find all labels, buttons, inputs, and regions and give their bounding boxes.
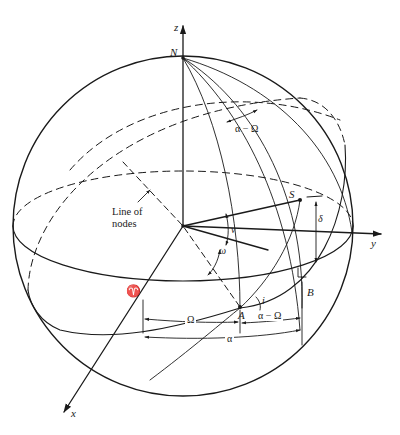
z-axis-label: z [174,22,178,33]
point-N [181,56,185,60]
inclination-label: i [262,296,265,306]
point-S [298,198,302,202]
north-pole-label: N [170,47,177,58]
orbit-plane-back [28,98,300,290]
line-of-nodes-line2: nodes [112,218,143,230]
line-of-nodes-line1: Line of [112,206,143,218]
delta-tick [307,196,322,197]
x-axis [64,226,183,412]
vernal-equinox-symbol: ♈ [126,285,141,297]
foot-B-label: B [307,287,314,298]
alpha-dimension-label: α [225,334,234,344]
orbit-plane-back-2 [300,98,345,145]
dim-alpha [145,330,300,338]
celestial-sphere-diagram [0,0,400,435]
line-of-nodes-annotation: Line of nodes [112,206,143,230]
y-axis-label: y [371,238,376,249]
inclination-arc [256,297,260,310]
alpha-minus-omega-top-label: α − Ω [235,124,258,134]
hour-circle-S [183,58,300,330]
nu-arc [226,214,228,245]
radius-to-satellite [183,200,300,226]
alpha-minus-omega-bottom-label: α − Ω [256,311,283,321]
nu-label: ν [231,225,235,235]
x-axis-label: x [71,408,76,419]
delta-label: δ [318,214,323,224]
parallel-back [70,102,340,170]
point-center [181,224,185,228]
satellite-label: S [289,189,295,200]
omega-label: ω [219,246,226,256]
line-of-nodes-pointer [138,190,150,202]
Omega-dimension-label: Ω [185,315,196,325]
node-A-label: A [238,310,245,321]
orbit-arc [150,200,300,380]
equator-front [13,226,353,281]
